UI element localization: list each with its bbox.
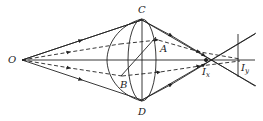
diagram-canvas: [0, 0, 263, 121]
label-O: O: [8, 55, 16, 65]
label-D: D: [138, 107, 146, 117]
label-A: A: [160, 44, 167, 54]
astigmatism-diagram: O C D A B Ix Iy: [0, 0, 263, 121]
label-C: C: [138, 5, 146, 15]
label-Iy: Iy: [241, 63, 249, 75]
label-Ix: Ix: [202, 67, 210, 79]
label-Ix-sub: x: [206, 71, 210, 79]
label-B: B: [120, 80, 127, 90]
chord-AB: [121, 37, 156, 76]
label-Iy-sub: y: [245, 67, 249, 75]
